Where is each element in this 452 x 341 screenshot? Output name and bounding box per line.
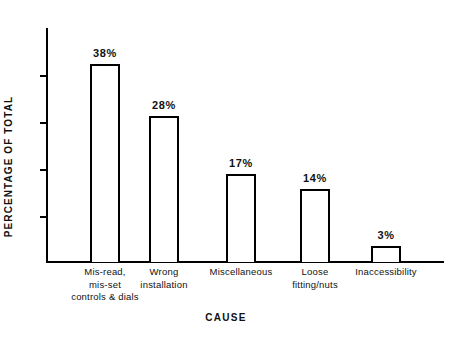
- bar[interactable]: [371, 246, 401, 262]
- bar-value-label: 14%: [303, 172, 327, 185]
- category-label-line: installation: [104, 279, 224, 292]
- bar-value-label: 28%: [152, 99, 176, 112]
- bar[interactable]: [226, 174, 256, 262]
- y-axis-title: PERCENTAGE OF TOTAL: [0, 59, 18, 274]
- bar-group: 38%: [90, 28, 120, 262]
- bar-group: 28%: [149, 28, 179, 262]
- x-axis-title: CAUSE: [0, 312, 452, 323]
- x-axis-category-label: Inaccessibility: [326, 266, 446, 279]
- category-label-line: controls & dials: [45, 291, 165, 304]
- category-label-line: fitting/nuts: [255, 279, 375, 292]
- bar-value-label: 3%: [377, 229, 394, 242]
- bar-group: 3%: [371, 28, 401, 262]
- y-axis-tick: [40, 75, 47, 77]
- y-axis-tick: [40, 216, 47, 218]
- bar-group: 14%: [300, 28, 330, 262]
- y-axis-tick: [40, 122, 47, 124]
- bar-chart: PERCENTAGE OF TOTAL 38%28%17%14%3% Mis-r…: [0, 0, 452, 341]
- category-label-line: Inaccessibility: [326, 266, 446, 279]
- bar[interactable]: [300, 189, 330, 262]
- plot-area: 38%28%17%14%3%: [47, 28, 444, 262]
- y-axis-tick: [40, 169, 47, 171]
- bar-value-label: 17%: [229, 157, 253, 170]
- x-axis-category-labels: Mis-read,mis-setcontrols & dialsWrongins…: [47, 266, 444, 312]
- bar[interactable]: [149, 116, 179, 262]
- bar-value-label: 38%: [93, 47, 117, 60]
- bar[interactable]: [90, 64, 120, 262]
- bar-group: 17%: [226, 28, 256, 262]
